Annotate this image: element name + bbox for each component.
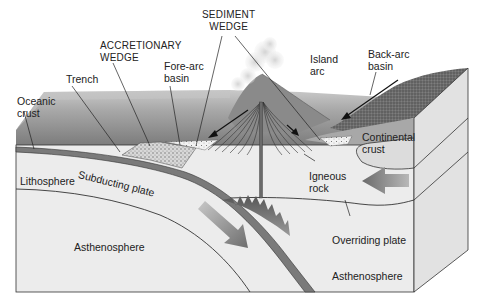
label-lithosphere: Lithosphere	[20, 175, 75, 187]
label-overriding-plate: Overriding plate	[332, 234, 406, 246]
label-igneous-rock: Igneous rock	[309, 170, 346, 194]
label-asthenosphere-right: Asthenosphere	[332, 270, 403, 282]
label-asthenosphere-left: Asthenosphere	[74, 241, 145, 253]
label-back-arc-basin: Back-arc basin	[368, 48, 409, 72]
label-oceanic-crust: Oceanic crust	[17, 95, 56, 119]
label-fore-arc-basin: Fore-arc basin	[164, 60, 204, 84]
label-continental-crust: Continental crust	[362, 131, 415, 155]
label-trench: Trench	[66, 73, 98, 85]
label-island-arc: Island arc	[310, 53, 338, 77]
label-sediment-wedge: SEDIMENT WEDGE	[202, 9, 255, 33]
